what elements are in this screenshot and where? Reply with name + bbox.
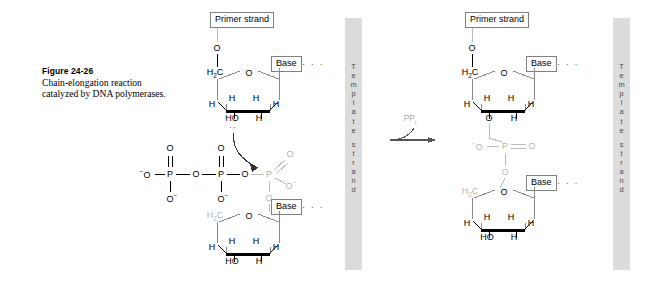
- atom-p-beta: P: [218, 169, 224, 179]
- atom-h2c-lower-left: H2C: [207, 210, 224, 222]
- bond-palpha-ominus: [275, 178, 286, 184]
- atom-ring-o-lower-left: O: [245, 211, 252, 221]
- atom-o-minus-beta: O−: [218, 192, 229, 204]
- caption-line-3: polymerases.: [115, 88, 165, 99]
- template-strand-left-label: Template strand: [345, 62, 362, 194]
- base-dots-upper-right: · · ·: [557, 59, 579, 69]
- atom-h-upper-right-c2: H: [508, 93, 515, 103]
- primer-strand-box-left: Primer strand: [210, 12, 274, 28]
- base-dots-lower-left: · · ·: [302, 202, 324, 212]
- atom-h-upper-right-c3: H: [484, 93, 491, 103]
- atom-h-lower-right-c2-down: H: [511, 232, 518, 242]
- atom-o-double-phosphodiester: O: [528, 141, 535, 151]
- bond-o-to-c5-right: [472, 54, 473, 67]
- bond-ringo-c1-left: [258, 71, 279, 79]
- atom-ho-lower-right: HO: [480, 232, 494, 242]
- base-box-lower-right: Base: [526, 175, 557, 191]
- figure-caption-text: Chain-elongation reaction catalyzed by D…: [42, 77, 170, 100]
- reaction-arrow-head: [428, 137, 436, 143]
- atom-h2c-lower-right: H2C: [462, 186, 479, 198]
- figure-caption: Figure 24-26 Chain-elongation reaction c…: [42, 66, 170, 100]
- bond-lines-overlay: [0, 0, 666, 284]
- bond-primerbox-to-o-right: [472, 28, 473, 42]
- atom-ho-lower-left: HO: [225, 256, 239, 266]
- template-strand-left: Template strand: [345, 18, 362, 270]
- base-dots-upper-left: · · ·: [302, 59, 324, 69]
- atom-o-minus-alpha: O−: [286, 179, 297, 191]
- atom-h-upper-right-c1: H: [528, 99, 535, 109]
- atom-h-lower-left-c2: H: [253, 236, 260, 246]
- bond-c4-c3-lower-right: [473, 221, 482, 230]
- atom-h-lower-right-c1: H: [528, 218, 535, 228]
- base-box-lower-left: Base: [271, 199, 302, 215]
- atom-o-double-gamma: O: [166, 143, 173, 153]
- bond-o-to-p-diag: [489, 138, 502, 142]
- atom-p-alpha: P: [266, 169, 272, 179]
- ppi-label: PPi: [404, 113, 417, 125]
- atom-h-upper-left-c1: H: [273, 99, 280, 109]
- lone-pair-hydroxyl: ··: [229, 123, 236, 132]
- atom-h-upper-left-c4: H: [209, 99, 216, 109]
- template-strand-right: Template strand: [613, 18, 630, 270]
- atom-h-lower-right-c4: H: [464, 218, 471, 228]
- atom-ring-o-lower-right: O: [500, 187, 507, 197]
- atom-o-double-alpha: O: [286, 149, 293, 159]
- nucleophilic-attack-arrow: [234, 133, 258, 168]
- atom-ring-o-upper-right: O: [500, 68, 507, 78]
- bond-o-to-c5-left: [217, 54, 218, 67]
- atom-ho-upper-left: HO: [225, 113, 239, 123]
- atom-o-double-beta: O: [217, 143, 224, 153]
- atom-ring-o-upper-left: O: [245, 68, 252, 78]
- primer-strand-box-right: Primer strand: [465, 12, 529, 28]
- figure-number-label: Figure 24-26: [42, 66, 170, 76]
- atom-o-bridge-1: O: [192, 169, 199, 179]
- base-box-upper-right: Base: [526, 56, 557, 72]
- caption-line-2: catalyzed by DNA: [42, 88, 113, 99]
- atom-h-upper-left-c3: H: [229, 93, 236, 103]
- bond-primerbox-to-o-left: [217, 28, 218, 42]
- atom-p-phosphodiester: P: [502, 141, 508, 151]
- atom-p-gamma: P: [167, 169, 173, 179]
- atom-h-lower-left-c2-down: H: [256, 256, 263, 266]
- bond-ringo-c1-lower-left: [258, 214, 279, 222]
- bond-ringo-c1-right: [513, 71, 534, 79]
- atom-o-minus-phosphodiester: −O: [472, 140, 483, 152]
- bond-c4-c3-lower-left: [218, 245, 227, 254]
- bond-palpha-odouble-a: [274, 160, 285, 170]
- atom-o-minus-gamma: O−: [167, 192, 178, 204]
- atom-h-upper-left-c2: H: [253, 93, 260, 103]
- atom-o-ester-phosphodiester: O: [501, 167, 508, 177]
- atom-h-upper-left-c2-down: H: [256, 113, 263, 123]
- bond-c4-c3-left: [218, 102, 227, 111]
- atom-terminal-o-minus: −O: [140, 168, 151, 180]
- reaction-arrow-curve: [390, 128, 414, 140]
- base-box-upper-left: Base: [271, 56, 302, 72]
- caption-line-1: Chain-elongation reaction: [42, 77, 142, 88]
- atom-h-lower-right-c3: H: [484, 212, 491, 222]
- figure-24-26: Figure 24-26 Chain-elongation reaction c…: [0, 0, 666, 284]
- atom-h-lower-left-c4: H: [209, 242, 216, 252]
- atom-h2c-right: H2C: [462, 67, 479, 79]
- atom-h-upper-right-c2-down: H: [511, 113, 518, 123]
- atom-o-bridge-2: O: [241, 169, 248, 179]
- atom-o-primer-left: O: [213, 43, 220, 53]
- ppi-text: PP: [404, 113, 415, 123]
- ppi-subscript: i: [415, 119, 416, 125]
- atom-o-c3-right: O: [485, 113, 492, 123]
- atom-h-lower-left-c3: H: [229, 236, 236, 246]
- bond-c4-c3-right: [473, 102, 482, 111]
- bond-ringo-c1-lower-right: [513, 190, 534, 198]
- atom-o-primer-right: O: [468, 43, 475, 53]
- atom-h-lower-left-c1: H: [273, 242, 280, 252]
- atom-h-lower-right-c2: H: [508, 212, 515, 222]
- nucleophilic-attack-arrowhead: [250, 164, 258, 172]
- atom-h2c-left: H2C: [207, 67, 224, 79]
- template-strand-right-label: Template strand: [613, 62, 630, 194]
- base-dots-lower-right: · · ·: [557, 178, 579, 188]
- bond-palpha-odouble-b: [277, 163, 288, 173]
- atom-h-upper-right-c4: H: [464, 99, 471, 109]
